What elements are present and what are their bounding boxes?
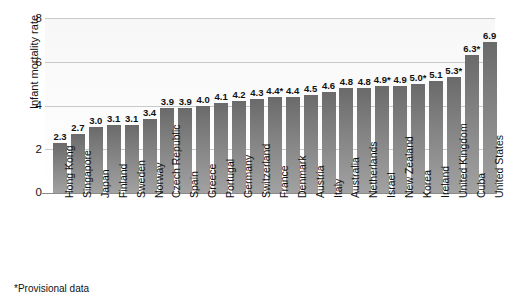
x-axis-category-label: Switzerland: [261, 144, 272, 198]
y-tick-label-0: 0: [20, 187, 42, 199]
x-axis-category-label: Netherlands: [368, 141, 379, 198]
x-axis-category-label: Sweden: [136, 160, 147, 198]
y-tick-label-6: 6: [20, 57, 42, 69]
x-axis-category-label: Portugal: [225, 159, 236, 198]
x-axis-category-label: Israel: [386, 172, 397, 198]
x-axis-category-label: Norway: [154, 162, 165, 198]
bar-value-label: 2.3: [39, 132, 81, 142]
x-axis-category-label: Italy: [333, 179, 344, 198]
y-tick-label-2: 2: [20, 144, 42, 156]
x-axis-category-label: Greece: [207, 164, 218, 198]
x-axis-category-label: Denmark: [297, 155, 308, 198]
x-axis-category-label: Ireland: [440, 166, 451, 198]
x-axis-category-label: Germany: [243, 155, 254, 198]
x-axis-category-label: France: [279, 165, 290, 198]
x-axis-category-label: Czech Republic: [171, 124, 182, 198]
x-axis-category-label: Australia: [350, 157, 361, 198]
x-axis-category-label: New Zealand: [404, 136, 415, 198]
x-axis-category-label: Japan: [100, 169, 111, 198]
x-axis-category-label: United Kingdom: [458, 123, 469, 198]
footnote: *Provisional data: [14, 283, 89, 294]
bar-value-label: 6.9: [469, 31, 511, 41]
x-axis-category-label: Singapore: [82, 150, 93, 198]
x-axis-category-label: Hong Kong: [64, 145, 75, 198]
y-tick-label-4: 4: [20, 100, 42, 112]
x-axis-category-label: Cuba: [476, 173, 487, 198]
x-axis-category-label: Austria: [315, 165, 326, 198]
gridline-6: [45, 62, 495, 63]
x-axis-category-label: United States: [494, 135, 505, 198]
infant-mortality-bar-chart: Infant mortality rate 8 6 4 2 0 2.32.73.…: [0, 0, 522, 307]
bar-value-label: 6.3*: [451, 44, 493, 54]
x-axis-category-label: Korea: [422, 170, 433, 198]
y-tick-label-8: 8: [20, 13, 42, 25]
gridline-8: [45, 18, 495, 19]
x-axis-category-label: Spain: [189, 171, 200, 198]
bar-value-label: 3.4: [129, 108, 171, 118]
x-axis-category-label: Finland: [118, 164, 129, 198]
bar-value-label: 5.3*: [433, 66, 475, 76]
